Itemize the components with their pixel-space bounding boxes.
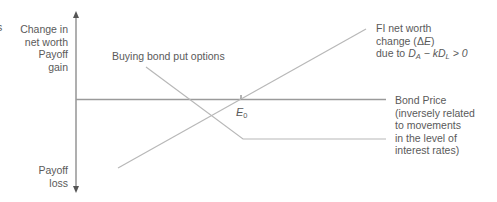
net-worth-label: FI net worth change (ΔE) due to DA − kDL… bbox=[376, 22, 468, 64]
arrow-down-icon bbox=[73, 186, 79, 193]
y-top-line-3: Payoff bbox=[14, 48, 68, 61]
net-worth-line-2: change (ΔE) bbox=[376, 35, 468, 48]
y-bottom-line-2: loss bbox=[14, 177, 68, 190]
y-top-line-4: gain bbox=[14, 61, 68, 74]
y-axis-bottom-label: Payoff loss bbox=[14, 164, 68, 189]
y-top-line-1: Change in bbox=[14, 23, 68, 36]
x-label-line-5: interest rates) bbox=[395, 144, 475, 157]
arrow-up-icon bbox=[73, 11, 79, 18]
e0-label: E0 bbox=[236, 106, 248, 123]
put-line-label: Buying bond put options bbox=[112, 50, 225, 63]
x-label-line-4: in the level of bbox=[395, 132, 475, 145]
put-payoff-line bbox=[146, 67, 386, 139]
x-label-line-2: (inversely related bbox=[395, 107, 475, 120]
x-axis-label: Bond Price (inversely related to movemen… bbox=[395, 94, 475, 157]
x-label-line-1: Bond Price bbox=[395, 94, 475, 107]
y-bottom-line-1: Payoff bbox=[14, 164, 68, 177]
y-top-line-2: net worth bbox=[14, 36, 68, 49]
net-worth-line-3: due to DA − kDL > 0 bbox=[376, 47, 468, 64]
net-worth-line-1: FI net worth bbox=[376, 22, 468, 35]
edge-fragment: s bbox=[0, 21, 2, 34]
y-axis-top-label: Change in net worth Payoff gain bbox=[14, 23, 68, 73]
x-label-line-3: to movements bbox=[395, 119, 475, 132]
